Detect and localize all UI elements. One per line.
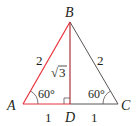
side-label-ab: 2 xyxy=(36,53,43,68)
side-label-bd: √ 3 xyxy=(51,65,67,80)
side-label-dc: 1 xyxy=(91,110,98,125)
side-label-ad: 1 xyxy=(45,110,52,125)
vertex-label-d: D xyxy=(64,110,75,125)
side-label-bc: 2 xyxy=(97,53,104,68)
triangle-diagram: B A C D 2 2 1 1 √ 3 60° 60° xyxy=(0,0,139,126)
angle-label-a: 60° xyxy=(38,87,55,101)
radical-sign: √ xyxy=(51,65,59,80)
vertex-label-c: C xyxy=(121,98,131,113)
angle-label-c: 60° xyxy=(88,87,105,101)
radicand: 3 xyxy=(59,65,66,80)
angle-arc-a xyxy=(31,91,39,104)
vertex-label-a: A xyxy=(6,98,16,113)
right-angle-marker xyxy=(64,98,70,104)
vertex-label-b: B xyxy=(65,5,74,20)
